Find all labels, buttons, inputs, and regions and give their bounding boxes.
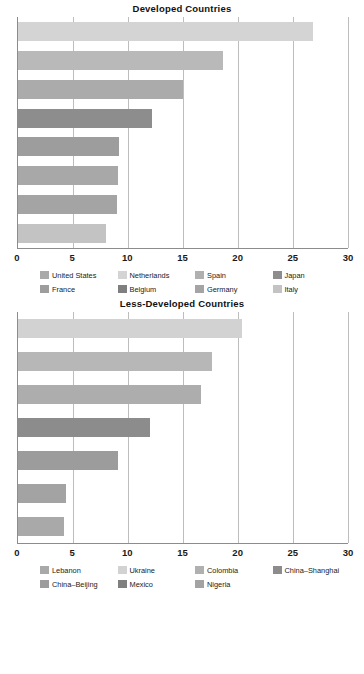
bar-italy: [18, 224, 106, 243]
chart-title-less-developed: Less-Developed Countries: [0, 295, 364, 312]
legend-swatch-icon: [40, 271, 49, 279]
x-tick-label-5: 5: [70, 547, 75, 558]
legend-item[interactable]: Italy: [273, 283, 349, 295]
x-tick-label-15: 15: [177, 547, 188, 558]
plot-area-developed: [17, 17, 348, 249]
legend-swatch-icon: [195, 285, 204, 293]
bar-france: [18, 137, 119, 156]
bar-row: [18, 484, 348, 503]
bar-row: [18, 418, 348, 437]
x-tick-label-10: 10: [122, 547, 133, 558]
legend-swatch-icon: [273, 285, 282, 293]
legend-item[interactable]: Spain: [195, 269, 271, 281]
legend-item[interactable]: Colombia: [195, 564, 271, 576]
gridline-30: [348, 312, 349, 543]
bar-row: [18, 319, 348, 338]
bar-belgium: [18, 166, 118, 185]
bar-row: [18, 352, 348, 371]
x-axis-developed: 051015202530: [17, 249, 348, 267]
bar-ukraine: [18, 352, 212, 371]
legend-item[interactable]: Ukraine: [118, 564, 194, 576]
legend-swatch-icon: [273, 566, 282, 574]
legend-label: Lebanon: [52, 566, 81, 575]
legend-item[interactable]: United States: [40, 269, 116, 281]
chart-panel-developed: Developed Countries 051015202530 United …: [0, 0, 364, 295]
plot-area-less-developed: [17, 312, 348, 544]
legend-label: Ukraine: [130, 566, 155, 575]
legend-item[interactable]: France: [40, 283, 116, 295]
x-tick-label-30: 30: [343, 252, 354, 263]
legend-swatch-icon: [40, 566, 49, 574]
x-tick-label-0: 0: [14, 547, 19, 558]
legend-label: United States: [52, 271, 96, 280]
x-tick-label-25: 25: [288, 252, 299, 263]
legend-label: Netherlands: [130, 271, 170, 280]
bar-row: [18, 195, 348, 214]
legend-item[interactable]: Netherlands: [118, 269, 194, 281]
x-tick-label-25: 25: [288, 547, 299, 558]
chart-title-developed: Developed Countries: [0, 0, 364, 17]
legend-swatch-icon: [195, 271, 204, 279]
legend-swatch-icon: [195, 566, 204, 574]
legend-label: China–Shanghai: [285, 566, 340, 575]
x-tick-label-15: 15: [177, 252, 188, 263]
legend-swatch-icon: [118, 285, 127, 293]
bar-series-less-developed: [18, 312, 348, 543]
legend-label: France: [52, 285, 75, 294]
bar-nigeria: [18, 517, 64, 536]
legend-label: Japan: [285, 271, 305, 280]
bar-united-states: [18, 22, 313, 41]
bar-mexico: [18, 484, 66, 503]
legend-label: Italy: [285, 285, 299, 294]
legend-item[interactable]: Japan: [273, 269, 349, 281]
bar-lebanon: [18, 319, 242, 338]
legend-swatch-icon: [40, 285, 49, 293]
bar-row: [18, 137, 348, 156]
legend-swatch-icon: [118, 566, 127, 574]
bar-row: [18, 109, 348, 128]
bar-china-shanghai: [18, 418, 150, 437]
legend-item[interactable]: Germany: [195, 283, 271, 295]
legend-developed: United StatesNetherlandsSpainJapanFrance…: [0, 269, 364, 295]
bar-row: [18, 385, 348, 404]
x-tick-label-5: 5: [70, 252, 75, 263]
legend-label: Belgium: [130, 285, 157, 294]
bar-germany: [18, 195, 117, 214]
bar-row: [18, 166, 348, 185]
x-tick-label-20: 20: [232, 252, 243, 263]
bar-row: [18, 22, 348, 41]
legend-label: Colombia: [207, 566, 238, 575]
legend-item[interactable]: Lebanon: [40, 564, 116, 576]
legend-item[interactable]: China–Shanghai: [273, 564, 349, 576]
x-tick-label-20: 20: [232, 547, 243, 558]
bar-netherlands: [18, 51, 223, 70]
bar-series-developed: [18, 17, 348, 248]
bar-row: [18, 517, 348, 536]
legend-swatch-icon: [118, 271, 127, 279]
bar-row: [18, 80, 348, 99]
bar-colombia: [18, 385, 201, 404]
chart-panel-less-developed: Less-Developed Countries 051015202530 Le…: [0, 295, 364, 590]
bar-japan: [18, 109, 152, 128]
legend-label: Germany: [207, 285, 237, 294]
x-axis-less-developed: 051015202530: [17, 544, 348, 562]
x-tick-label-10: 10: [122, 252, 133, 263]
x-tick-label-0: 0: [14, 252, 19, 263]
figure-caption: [0, 583, 364, 592]
bar-spain: [18, 80, 183, 99]
legend-item[interactable]: Belgium: [118, 283, 194, 295]
bar-china-beijing: [18, 451, 118, 470]
gridline-30: [348, 17, 349, 248]
x-tick-label-30: 30: [343, 547, 354, 558]
legend-swatch-icon: [273, 271, 282, 279]
bar-row: [18, 224, 348, 243]
bar-row: [18, 451, 348, 470]
bar-row: [18, 51, 348, 70]
legend-label: Spain: [207, 271, 226, 280]
